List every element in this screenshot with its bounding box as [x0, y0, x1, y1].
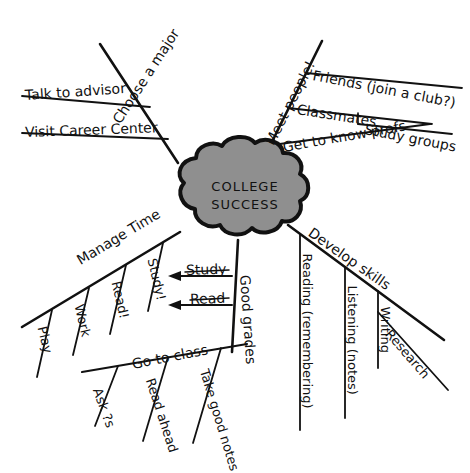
center-label-line2: SUCCESS: [195, 196, 295, 214]
center-label-line1: COLLEGE: [195, 178, 295, 196]
mind-map-canvas: COLLEGE SUCCESS Choose a major Talk to a…: [0, 0, 470, 473]
branch-label-reading-remembering[interactable]: Reading (remembering): [301, 254, 314, 409]
arrow-head-study: [168, 271, 181, 281]
arrow-head-read: [168, 300, 181, 310]
arrow-label-read[interactable]: Read: [190, 291, 226, 306]
arrow-label-study[interactable]: Study: [186, 262, 227, 277]
branch-label-listening-notes[interactable]: Listening (notes): [346, 286, 359, 395]
branch-line-good-grades: [232, 240, 238, 352]
mind-map-lines: [0, 0, 470, 473]
